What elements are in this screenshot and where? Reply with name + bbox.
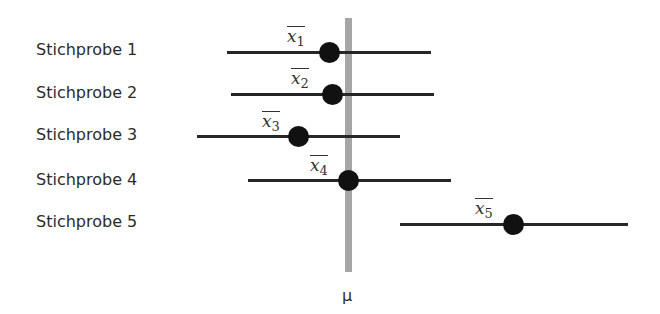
sample-mean-symbol-5: x5 bbox=[475, 198, 493, 223]
population-mean-bar bbox=[345, 18, 352, 272]
sample-mean-symbol-1: x1 bbox=[287, 26, 305, 51]
sample-label-5: Stichprobe 5 bbox=[36, 212, 137, 232]
sample-mean-symbol-2: x2 bbox=[291, 68, 309, 93]
population-mean-label: μ bbox=[342, 286, 352, 305]
sample-mean-dot-2 bbox=[322, 84, 343, 105]
sample-label-4: Stichprobe 4 bbox=[36, 170, 137, 190]
sample-mean-symbol-3: x3 bbox=[262, 111, 280, 136]
sample-mean-dot-1 bbox=[319, 42, 340, 63]
sample-label-1: Stichprobe 1 bbox=[36, 40, 137, 60]
sample-label-2: Stichprobe 2 bbox=[36, 83, 137, 103]
sample-label-3: Stichprobe 3 bbox=[36, 125, 137, 145]
sample-mean-dot-4 bbox=[338, 170, 359, 191]
sample-mean-symbol-4: x4 bbox=[310, 155, 328, 180]
sample-mean-dot-5 bbox=[503, 214, 524, 235]
sample-mean-dot-3 bbox=[288, 126, 309, 147]
